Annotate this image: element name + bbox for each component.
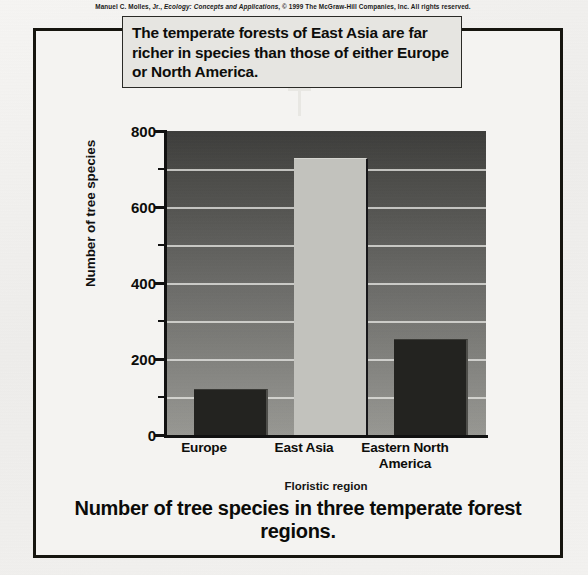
y-tick-200 [155, 358, 164, 361]
callout-box: The temperate forests of East Asia are f… [122, 16, 462, 88]
figure-caption: Number of tree species in three temperat… [58, 497, 538, 543]
bar-europe [194, 389, 268, 435]
callout-pointer-line [298, 88, 301, 116]
y-axis-tick-label-400: 400 [110, 275, 156, 292]
y-axis-tick-label-200: 200 [110, 351, 156, 368]
x-axis-label-eastern-north-america: Eastern NorthAmerica [349, 440, 461, 471]
bar-eastern-north-america [394, 339, 468, 435]
y-axis-title: Number of tree species [83, 119, 98, 309]
y-axis-line [164, 130, 167, 437]
callout-text: The temperate forests of East Asia are f… [132, 23, 452, 82]
copyright-credit: Manuel C. Molles, Jr., Ecology: Concepts… [47, 3, 519, 10]
x-axis-title: Floristic region [166, 480, 486, 492]
x-axis-label-line2: America [379, 456, 431, 471]
credit-rights: , © 1999 The McGraw-Hill Companies, Inc.… [278, 3, 470, 10]
y-tick-400 [155, 282, 164, 285]
y-tick-800 [155, 130, 164, 133]
x-axis-label-europe: Europe [154, 440, 254, 456]
y-tick-600 [155, 206, 164, 209]
credit-author: Manuel C. Molles, Jr., [95, 3, 162, 10]
bar-east-asia [294, 158, 368, 435]
y-axis-tick-label-0: 0 [110, 427, 156, 444]
credit-book-title: Ecology: Concepts and Applications [164, 3, 278, 10]
x-axis-label-east-asia: East Asia [254, 440, 354, 456]
y-axis-tick-label-800: 800 [110, 123, 156, 140]
y-axis-tick-label-600: 600 [110, 199, 156, 216]
x-axis-line [164, 435, 488, 438]
x-axis-label-line1: Eastern North [361, 440, 448, 455]
y-tick-0 [155, 434, 164, 437]
plot-area [166, 131, 486, 435]
